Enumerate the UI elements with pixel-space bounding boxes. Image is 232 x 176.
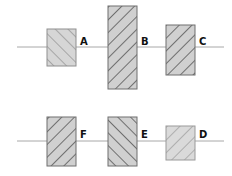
label-a: A	[80, 37, 88, 47]
box-e	[108, 117, 137, 166]
label-d: D	[199, 130, 207, 140]
box-c	[166, 25, 195, 75]
box-f	[47, 117, 76, 166]
label-b: B	[141, 37, 149, 47]
box-b	[108, 6, 137, 89]
box-a	[47, 29, 76, 66]
label-e: E	[141, 130, 148, 140]
box-d	[166, 126, 195, 160]
label-f: F	[80, 130, 87, 140]
diagram-canvas	[0, 0, 232, 176]
label-c: C	[199, 37, 206, 47]
